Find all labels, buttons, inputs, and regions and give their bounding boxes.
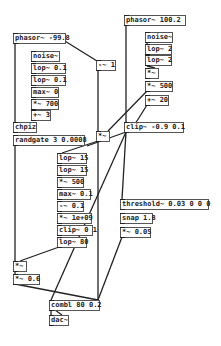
- pd-object-sub-1[interactable]: -~ 1: [96, 60, 116, 71]
- pd-object-randgate[interactable]: randgate 3 0.0008: [13, 135, 85, 146]
- pd-patch-canvas[interactable]: phasor~ -99.8phasor~ 100.2noise~lop~ 0.1…: [0, 0, 221, 346]
- pd-object-threshold[interactable]: threshold~ 0.03 0 0 0: [120, 199, 209, 210]
- pd-object-add-20[interactable]: +~ 20: [145, 95, 169, 106]
- pd-object-comb[interactable]: combl 80 0.2: [49, 300, 100, 311]
- pd-object-max-0.1[interactable]: max~ 0.1: [57, 189, 91, 200]
- pd-object-lop-2-a[interactable]: lop~ 2: [145, 44, 172, 55]
- pd-object-snap[interactable]: snap 1.8: [120, 213, 153, 224]
- pd-object-mul-0.6[interactable]: *~ 0.6: [13, 274, 40, 285]
- pd-object-lop-80[interactable]: lop~ 80: [57, 237, 87, 248]
- cord[interactable]: [122, 132, 126, 199]
- pd-object-add-3[interactable]: +~ 3: [31, 110, 51, 121]
- pd-object-clip-bottom[interactable]: clip~ 0 1: [57, 225, 93, 236]
- pd-object-lop-15-a[interactable]: lop~ 15: [57, 153, 87, 164]
- pd-object-noise-left[interactable]: noise~: [31, 51, 60, 62]
- pd-object-mul-1e09[interactable]: *~ 1e+09: [57, 213, 92, 224]
- pd-object-mul-0.05[interactable]: *~ 0.05: [120, 227, 151, 238]
- pd-object-lop-2-b[interactable]: lop~ 2: [145, 55, 172, 66]
- pd-object-clip-top[interactable]: clip~ -0.9 0.1: [124, 122, 184, 133]
- pd-object-lop-15-b[interactable]: lop~ 15: [57, 165, 87, 176]
- pd-object-mul-low[interactable]: *~: [13, 261, 27, 272]
- pd-object-mul-500-right[interactable]: *~ 500: [145, 81, 173, 92]
- pd-object-chpiz[interactable]: chpiz: [13, 122, 37, 133]
- pd-object-mul-mid[interactable]: *~: [96, 131, 110, 142]
- cord[interactable]: [98, 237, 122, 300]
- pd-object-lop-0.1-b[interactable]: lop~ 0.1: [31, 75, 66, 86]
- pd-object-mul-700[interactable]: *~ 700: [31, 99, 59, 110]
- cord[interactable]: [20, 247, 59, 261]
- pd-object-lop-0.1-a[interactable]: lop~ 0.1: [31, 63, 66, 74]
- pd-object-max-0[interactable]: max~ 0: [31, 87, 59, 98]
- pd-object-dac[interactable]: dac~: [49, 315, 69, 326]
- pd-object-mul-right[interactable]: *~: [145, 68, 159, 79]
- pd-object-sub-0.1[interactable]: -~ 0.1: [57, 201, 84, 212]
- pd-object-phasor-left[interactable]: phasor~ -99.8: [13, 33, 66, 44]
- pd-object-phasor-right[interactable]: phasor~ 100.2: [124, 15, 186, 26]
- pd-object-noise-right[interactable]: noise~: [145, 32, 173, 43]
- pd-object-mul-500-left[interactable]: *~ 500: [57, 177, 84, 188]
